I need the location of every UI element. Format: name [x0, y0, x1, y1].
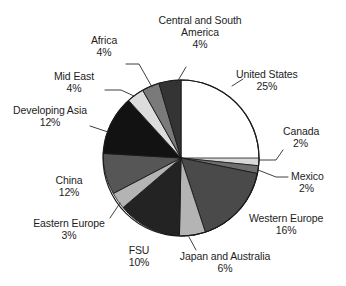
label-mid-east-name: Mid East — [54, 70, 94, 82]
label-eastern-europe-name: Eastern Europe — [33, 217, 105, 229]
leader-line-japan-and-australia — [189, 237, 196, 250]
label-mexico-pct: 2% — [291, 182, 324, 194]
label-fsu: FSU 10% — [121, 244, 157, 268]
label-africa-name: Africa — [91, 34, 117, 46]
label-fsu-name: FSU — [129, 244, 150, 256]
label-mexico: Mexico 2% — [291, 170, 324, 194]
leader-line-mexico — [258, 170, 288, 177]
label-developing-asia: Developing Asia 12% — [9, 104, 91, 128]
pie-slices — [103, 80, 259, 236]
label-mid-east-pct: 4% — [45, 82, 103, 94]
label-eastern-europe-pct: 3% — [28, 229, 110, 241]
label-eastern-europe: Eastern Europe 3% — [28, 217, 110, 241]
label-united-states-name: United States — [236, 68, 298, 80]
label-western-europe-pct: 16% — [249, 224, 323, 236]
label-africa-pct: 4% — [82, 46, 126, 58]
label-developing-asia-name: Developing Asia — [13, 104, 87, 116]
leader-line-africa — [126, 64, 152, 87]
leader-line-eastern-europe — [110, 203, 120, 218]
label-africa: Africa 4% — [82, 34, 126, 58]
leader-line-developing-asia — [90, 126, 108, 132]
label-canada: Canada 2% — [283, 125, 319, 149]
label-japan-and-australia-pct: 6% — [160, 262, 290, 274]
pie-chart-figure: United States 25% Canada 2% Mexico 2% We… — [0, 0, 346, 286]
label-japan-and-australia-name: Japan and Australia — [180, 250, 270, 262]
label-western-europe-name: Western Europe — [249, 212, 323, 224]
label-canada-pct: 2% — [283, 137, 319, 149]
label-mid-east: Mid East 4% — [45, 70, 103, 94]
leader-line-mid-east — [105, 90, 134, 96]
label-united-states-pct: 25% — [236, 80, 298, 92]
label-central-and-south-america-pct: 4% — [145, 38, 255, 50]
label-china-name: China — [56, 174, 83, 186]
label-japan-and-australia: Japan and Australia 6% — [160, 250, 290, 274]
label-china: China 12% — [45, 174, 93, 198]
label-central-and-south-america: Central and South America 4% — [145, 14, 255, 51]
label-central-and-south-america-line1: Central and South — [159, 14, 242, 26]
label-central-and-south-america-line2: America — [145, 26, 255, 38]
leader-line-canada — [259, 150, 283, 160]
label-mexico-name: Mexico — [291, 170, 324, 182]
label-western-europe: Western Europe 16% — [249, 212, 323, 236]
label-china-pct: 12% — [45, 186, 93, 198]
label-united-states: United States 25% — [236, 68, 298, 92]
label-fsu-pct: 10% — [121, 256, 157, 268]
label-canada-name: Canada — [283, 125, 319, 137]
label-developing-asia-pct: 12% — [9, 116, 91, 128]
